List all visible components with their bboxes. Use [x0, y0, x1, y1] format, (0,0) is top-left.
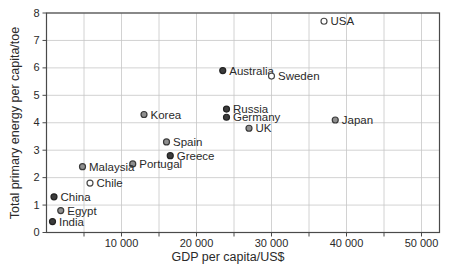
y-tick-label: 7	[33, 34, 39, 46]
y-tick-label: 6	[33, 61, 39, 73]
y-tick-label: 0	[33, 226, 39, 238]
data-point-uk	[246, 125, 252, 131]
data-point-label-spain: Spain	[173, 136, 202, 148]
data-point-spain	[164, 139, 170, 145]
y-tick-label: 5	[33, 89, 39, 101]
data-point-label-chile: Chile	[97, 177, 123, 189]
data-point-japan	[332, 117, 338, 123]
x-tick-label: 30 000	[255, 237, 289, 249]
data-point-chile	[87, 180, 93, 186]
data-point-australia	[220, 68, 226, 74]
data-point-label-usa: USA	[331, 15, 355, 27]
data-point-label-india: India	[59, 216, 85, 228]
x-axis-title: GDP per capita/US$	[0, 250, 456, 264]
chart-figure: 10 00020 00030 00040 00050 000012345678U…	[0, 0, 456, 275]
data-point-label-malaysia: Malaysia	[89, 161, 135, 173]
x-tick-label: 40 000	[330, 237, 364, 249]
x-tick-label: 20 000	[180, 237, 214, 249]
y-tick-label: 2	[33, 171, 39, 183]
data-point-russia	[224, 106, 230, 112]
data-point-label-australia: Australia	[229, 65, 274, 77]
data-point-label-greece: Greece	[177, 150, 215, 162]
data-point-label-portugal: Portugal	[139, 158, 182, 170]
data-point-korea	[141, 112, 147, 118]
x-tick-label: 50 000	[405, 237, 439, 249]
data-point-malaysia	[80, 164, 86, 170]
data-point-label-uk: UK	[256, 122, 272, 134]
y-tick-label: 1	[33, 199, 39, 211]
data-point-label-china: China	[61, 191, 92, 203]
y-tick-label: 3	[33, 144, 39, 156]
data-point-china	[51, 194, 57, 200]
y-axis-title: Total primary energy per capita/toe	[8, 13, 22, 233]
y-tick-label: 8	[33, 7, 39, 19]
data-point-egypt	[58, 208, 64, 214]
data-point-usa	[321, 18, 327, 24]
data-point-india	[50, 219, 56, 225]
y-tick-label: 4	[33, 116, 39, 128]
data-point-sweden	[269, 73, 275, 79]
x-tick-label: 10 000	[105, 237, 139, 249]
data-point-label-korea: Korea	[151, 109, 182, 121]
scatter-plot: 10 00020 00030 00040 00050 000012345678U…	[0, 0, 456, 275]
data-point-germany	[224, 114, 230, 120]
data-point-label-japan: Japan	[342, 114, 373, 126]
data-point-label-sweden: Sweden	[278, 70, 320, 82]
